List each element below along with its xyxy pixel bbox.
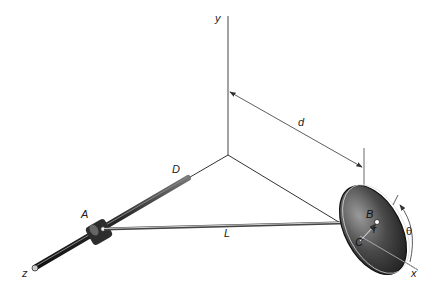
label-A: A: [81, 209, 88, 220]
label-D: D: [172, 164, 180, 175]
label-d: d: [298, 117, 304, 128]
dimension-d-line: [230, 92, 362, 167]
mechanism-drawing: [0, 0, 439, 293]
z-axis: [185, 155, 228, 180]
rod-z: [36, 178, 188, 267]
label-z: z: [22, 268, 28, 279]
label-x: x: [411, 268, 417, 279]
diagram-canvas: y d D A L B r C θ x z: [0, 0, 439, 293]
label-L: L: [224, 228, 230, 239]
label-B: B: [366, 209, 373, 220]
label-C: C: [355, 237, 363, 248]
label-r: r: [373, 225, 376, 235]
rod-end-cap: [32, 265, 38, 271]
label-theta: θ: [406, 226, 412, 237]
label-y: y: [215, 13, 221, 24]
